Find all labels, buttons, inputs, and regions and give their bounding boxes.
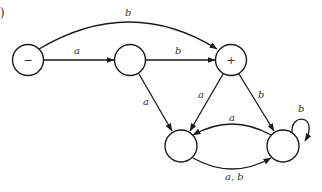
state-2 [115,45,146,76]
edge-label-n4-n5: a, b [225,171,244,182]
state-5 [267,130,299,162]
edge-n5-n4 [193,124,271,135]
edge-label-n2-n4: a [143,96,149,107]
edge-label-n1-n2: a [74,45,80,56]
corner-mark: ) [0,6,5,20]
automaton-diagram: ) a b b a a b a a, b b − [0,0,322,192]
edge-label-n3-n4: a [198,89,204,100]
edge-label-n1-n3: b [125,7,131,18]
edge-label-n5-self: b [298,103,304,114]
state-label-final: + [226,54,235,67]
edge-label-n3-n5: b [258,89,264,100]
state-final: + [216,45,247,76]
edge-n3-n5 [239,74,274,131]
edge-n4-n5 [193,158,271,169]
edge-n3-n4 [190,74,223,131]
state-label-start: − [23,54,32,67]
state-4 [165,130,197,162]
edge-label-n5-n4: a [229,112,235,123]
state-start: − [13,45,44,76]
edge-label-n2-n3: b [175,45,181,56]
